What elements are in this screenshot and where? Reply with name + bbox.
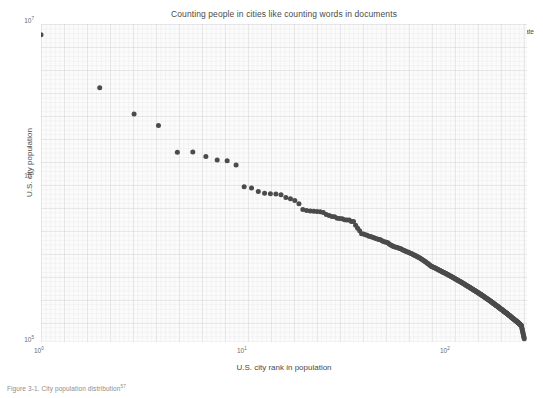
y-axis-label: U.S. city population	[25, 98, 34, 228]
x-tick-1e2: 102	[440, 347, 450, 354]
figure-caption: Figure 3-1. City population distribution…	[7, 385, 126, 392]
scatter-plot-svg	[41, 24, 527, 342]
y-tick-1e7: 107	[8, 17, 34, 24]
figure-caption-text: Figure 3-1. City population distribution	[7, 385, 120, 392]
x-tick-1e1: 101	[237, 347, 247, 354]
chart-title: Counting people in cities like counting …	[41, 9, 527, 19]
figure-container: Counting people in cities like counting …	[0, 0, 543, 378]
x-axis-label: U.S. city rank in population	[41, 363, 527, 372]
figure-caption-footnote: 57	[120, 384, 125, 389]
plot-area	[41, 24, 527, 342]
x-tick-1e0: 100	[34, 347, 44, 354]
y-tick-1e5: 105	[8, 336, 34, 343]
